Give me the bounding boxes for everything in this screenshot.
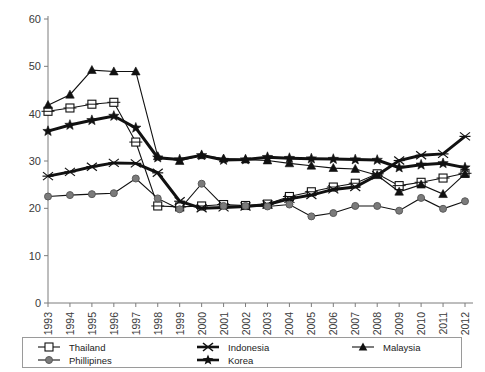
legend-canvas: ThailandIndonesiaMalaysiaPhillipinesKore… (23, 338, 461, 367)
x-tick-label: 1993 (42, 312, 54, 336)
marker-filled-circle (418, 194, 425, 201)
marker-solid-star (416, 159, 426, 169)
x-tick-label: 2003 (261, 312, 273, 336)
marker-x-star (152, 169, 163, 177)
marker-x-star (460, 132, 471, 140)
series-phillipines (45, 175, 469, 220)
marker-filled-circle (330, 210, 337, 217)
x-tick-label: 1996 (108, 312, 120, 336)
y-tick-label: 30 (29, 155, 41, 167)
marker-filled-circle (462, 198, 469, 205)
marker-filled-circle (286, 201, 293, 208)
marker-x-star (130, 159, 141, 167)
series-line (48, 70, 465, 194)
x-tick-label: 2005 (305, 312, 317, 336)
marker-filled-circle (176, 206, 183, 213)
marker-filled-circle (88, 191, 95, 198)
chart-legend: ThailandIndonesiaMalaysiaPhillipinesKore… (22, 337, 462, 368)
chart-figure: 0102030405060199319941995199619971998199… (0, 0, 485, 372)
marker-solid-star (350, 154, 360, 164)
y-tick-label: 10 (29, 250, 41, 262)
x-tick-label: 2007 (349, 312, 361, 336)
marker-filled-circle (352, 202, 359, 209)
marker-filled-circle (308, 213, 315, 220)
line-chart-canvas: 0102030405060199319941995199619971998199… (0, 0, 485, 372)
legend-item-korea: Korea (197, 354, 254, 365)
x-tick-label: 2001 (218, 312, 230, 336)
marker-filled-circle (66, 192, 73, 199)
marker-solid-star (218, 155, 228, 165)
marker-x-star (416, 151, 427, 159)
legend-item-label: Thailand (69, 342, 105, 353)
marker-filled-circle (45, 193, 52, 200)
y-tick-label: 60 (29, 13, 41, 25)
legend-item-phillipines: Phillipines (38, 355, 112, 366)
series-malaysia (44, 66, 470, 198)
legend-item-malaysia: Malaysia (352, 342, 421, 353)
y-tick-label: 50 (29, 60, 41, 72)
legend-item-label: Korea (228, 355, 254, 366)
marker-solid-star (328, 154, 338, 164)
marker-filled-circle (396, 207, 403, 214)
legend-item-label: Phillipines (69, 355, 112, 366)
marker-filled-circle (198, 180, 205, 187)
marker-filled-circle (132, 175, 139, 182)
y-tick-label: 0 (35, 297, 41, 309)
marker-solid-star (87, 115, 97, 125)
x-tick-label: 1995 (86, 312, 98, 336)
x-tick-label: 2009 (393, 312, 405, 336)
marker-triangle (131, 67, 140, 75)
x-tick-label: 2000 (196, 312, 208, 336)
marker-solid-star (65, 120, 75, 130)
legend-item-label: Malaysia (383, 342, 421, 353)
x-tick-label: 1998 (152, 312, 164, 336)
marker-filled-circle (154, 195, 161, 202)
marker-filled-circle (374, 202, 381, 209)
legend-item-thailand: Thailand (38, 342, 105, 353)
y-tick-label: 40 (29, 108, 41, 120)
legend-item-label: Indonesia (228, 342, 270, 353)
x-tick-label: 2011 (437, 312, 449, 335)
series-indonesia (43, 132, 471, 212)
marker-solid-star (372, 155, 382, 165)
marker-filled-circle (264, 203, 271, 210)
x-tick-label: 2010 (415, 312, 427, 336)
x-tick-label: 1997 (130, 312, 142, 336)
marker-filled-circle (220, 202, 227, 209)
marker-triangle (44, 101, 53, 109)
x-tick-label: 2002 (240, 312, 252, 336)
marker-x-star (64, 168, 75, 176)
x-tick-label: 2012 (459, 312, 471, 336)
marker-x-star (438, 150, 449, 158)
legend-item-indonesia: Indonesia (197, 342, 270, 353)
marker-x-star (108, 159, 119, 167)
x-tick-label: 2006 (327, 312, 339, 336)
x-tick-label: 1994 (64, 312, 76, 336)
x-tick-label: 2008 (371, 312, 383, 336)
marker-solid-star (438, 158, 448, 168)
marker-filled-circle (110, 190, 117, 197)
y-tick-label: 20 (29, 202, 41, 214)
marker-x-star (86, 163, 97, 171)
marker-triangle (88, 66, 97, 74)
x-tick-label: 1999 (174, 312, 186, 336)
marker-filled-circle (242, 202, 249, 209)
marker-filled-circle (440, 205, 447, 212)
x-tick-label: 2004 (283, 312, 295, 336)
